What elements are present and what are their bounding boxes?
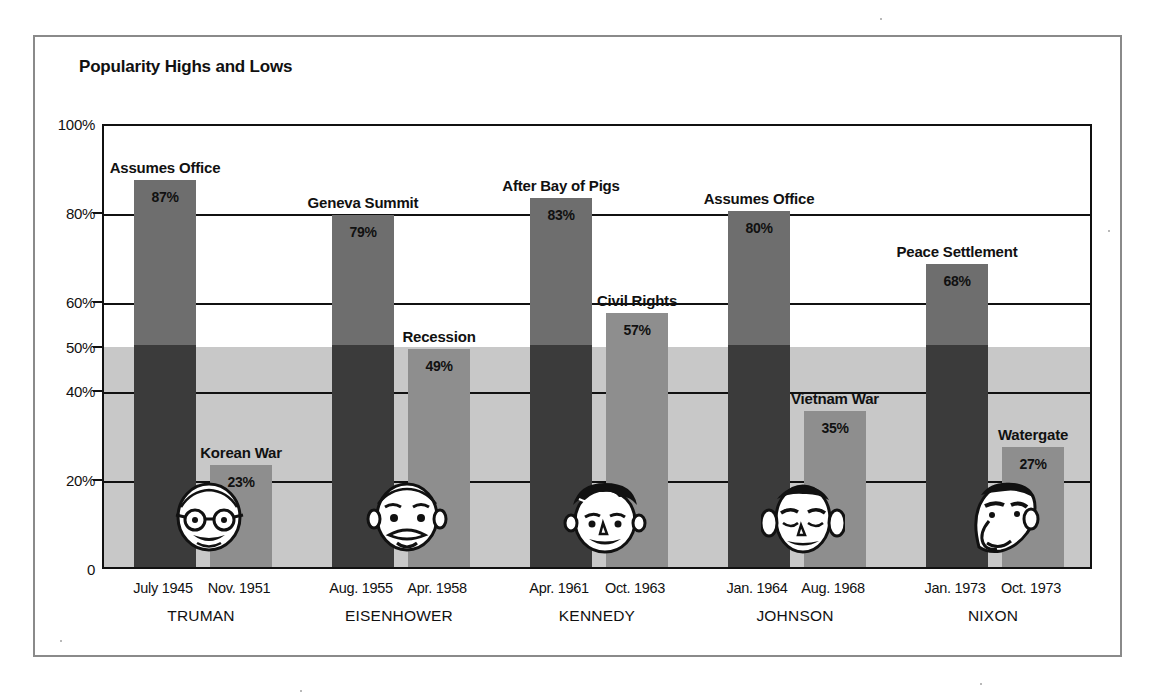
bar — [530, 198, 592, 567]
bar-event-label: Watergate — [998, 426, 1068, 443]
x-axis-president-label: KENNEDY — [559, 607, 635, 625]
x-axis-president-label: NIXON — [968, 607, 1018, 625]
y-axis-tick-label: 50% — [66, 338, 95, 355]
y-axis-tick-label: 40% — [66, 383, 95, 400]
y-axis-tick-label: 100% — [58, 116, 95, 133]
y-axis-tick-label: 20% — [66, 472, 95, 489]
bar-value-label: 35% — [804, 420, 866, 436]
figure-frame: Popularity Highs and Lows 020%40%50%60%8… — [33, 35, 1122, 657]
bar-segment-in-band — [530, 345, 592, 568]
bar-segment-in-band — [408, 349, 470, 567]
bar-event-label: Peace Settlement — [896, 243, 1017, 260]
x-axis-date-label: Oct. 1973 — [1001, 580, 1061, 596]
paper-speck — [1108, 230, 1110, 232]
x-axis-date-label: Aug. 1955 — [329, 580, 392, 596]
y-axis-tick-label: 80% — [66, 205, 95, 222]
x-axis-date-label: Aug. 1968 — [801, 580, 864, 596]
x-axis-date-label: July 1945 — [133, 580, 192, 596]
bar — [332, 215, 394, 567]
paper-speck — [300, 690, 302, 692]
x-axis-date-label: Jan. 1964 — [727, 580, 788, 596]
bar — [606, 313, 668, 567]
bar-segment-in-band — [926, 345, 988, 568]
y-axis: 020%40%50%60%80%100% — [35, 124, 95, 569]
bar-event-label: Recession — [402, 328, 475, 345]
bar-value-label: 87% — [134, 189, 196, 205]
bar — [408, 349, 470, 567]
bar-value-label: 68% — [926, 273, 988, 289]
bar — [728, 211, 790, 567]
bar — [134, 180, 196, 567]
bar-segment-in-band — [134, 345, 196, 568]
x-axis-president-label: EISENHOWER — [345, 607, 453, 625]
plot-area: 87%Assumes Office23%Korean War 79%Geneva… — [102, 124, 1092, 569]
bar-segment-in-band — [332, 345, 394, 568]
bar-segment-in-band — [606, 345, 668, 568]
bar-event-label: Assumes Office — [110, 159, 221, 176]
bar-value-label: 57% — [606, 322, 668, 338]
gridline-80 — [104, 214, 1090, 216]
bar-event-label: Civil Rights — [597, 292, 677, 309]
y-axis-tick-mark — [93, 390, 103, 392]
bar-event-label: Geneva Summit — [308, 194, 419, 211]
x-axis-date-label: Apr. 1961 — [529, 580, 588, 596]
y-axis-tick-label: 60% — [66, 294, 95, 311]
bar-value-label: 23% — [210, 474, 272, 490]
bar-value-label: 49% — [408, 358, 470, 374]
paper-speck — [980, 683, 982, 685]
bar-value-label: 80% — [728, 220, 790, 236]
y-axis-tick-label: 0 — [87, 561, 95, 578]
chart-title: Popularity Highs and Lows — [79, 57, 292, 77]
x-axis-date-label: Apr. 1958 — [407, 580, 466, 596]
bar-value-label: 79% — [332, 224, 394, 240]
bar-value-label: 83% — [530, 207, 592, 223]
y-axis-tick-mark — [93, 212, 103, 214]
y-axis-tick-mark — [93, 346, 103, 348]
x-axis-date-label: Oct. 1963 — [605, 580, 665, 596]
x-axis-president-label: JOHNSON — [756, 607, 833, 625]
bar-event-label: Korean War — [200, 444, 282, 461]
bar — [926, 264, 988, 567]
bar-event-label: Assumes Office — [704, 190, 815, 207]
x-axis-date-label: Jan. 1973 — [925, 580, 986, 596]
y-axis-tick-mark — [93, 479, 103, 481]
y-axis-tick-mark — [93, 301, 103, 303]
paper-speck — [880, 18, 882, 20]
x-axis-date-label: Nov. 1951 — [208, 580, 270, 596]
bar-segment-in-band — [728, 345, 790, 568]
bar-event-label: Vietnam War — [791, 390, 879, 407]
bar-event-label: After Bay of Pigs — [502, 177, 619, 194]
paper-speck — [60, 640, 62, 642]
x-axis-president-label: TRUMAN — [167, 607, 235, 625]
bar-value-label: 27% — [1002, 456, 1064, 472]
